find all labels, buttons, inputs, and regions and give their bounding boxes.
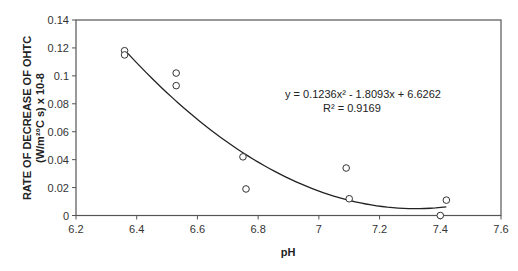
data-point xyxy=(346,195,353,202)
scatter-chart: 00.020.040.060.080.10.120.14 6.26.46.66.… xyxy=(0,0,518,271)
x-tick-label: 7 xyxy=(316,223,322,235)
data-point xyxy=(437,212,444,219)
y-axis: 00.020.040.060.080.10.120.14 xyxy=(48,14,76,222)
data-point xyxy=(173,82,180,89)
x-tick-label: 7.6 xyxy=(493,223,508,235)
y-tick-label: 0.04 xyxy=(48,154,69,166)
data-point xyxy=(173,70,180,77)
trendline-equation: y = 0.1236x² - 1.8093x + 6.6262 xyxy=(285,88,441,100)
y-tick-label: 0.08 xyxy=(48,98,69,110)
data-point xyxy=(243,186,250,193)
x-tick-label: 7.4 xyxy=(433,223,448,235)
y-tick-label: 0.1 xyxy=(54,70,69,82)
y-tick-label: 0.06 xyxy=(48,126,69,138)
y-tick-label: 0.02 xyxy=(48,182,69,194)
data-point xyxy=(240,154,247,161)
y-tick-label: 0.12 xyxy=(48,42,69,54)
x-tick-label: 6.2 xyxy=(68,223,83,235)
data-point xyxy=(121,52,128,59)
x-tick-label: 6.6 xyxy=(190,223,205,235)
data-points xyxy=(121,47,449,218)
x-tick-label: 7.2 xyxy=(372,223,387,235)
data-point xyxy=(443,197,450,204)
data-point xyxy=(343,165,350,172)
y-tick-label: 0.14 xyxy=(48,14,69,26)
y-axis-title-line1: RATE OF DECREASE OF OHTC xyxy=(21,36,33,200)
x-tick-label: 6.8 xyxy=(250,223,265,235)
y-axis-title-line2: (W/m²°C s) x 10-8 xyxy=(34,73,46,163)
x-axis-title: pH xyxy=(281,246,296,258)
x-tick-label: 6.4 xyxy=(129,223,144,235)
plot-border xyxy=(76,20,501,216)
y-tick-label: 0 xyxy=(63,210,69,222)
plot-area xyxy=(76,20,501,216)
r-squared-label: R² = 0.9169 xyxy=(323,102,381,114)
